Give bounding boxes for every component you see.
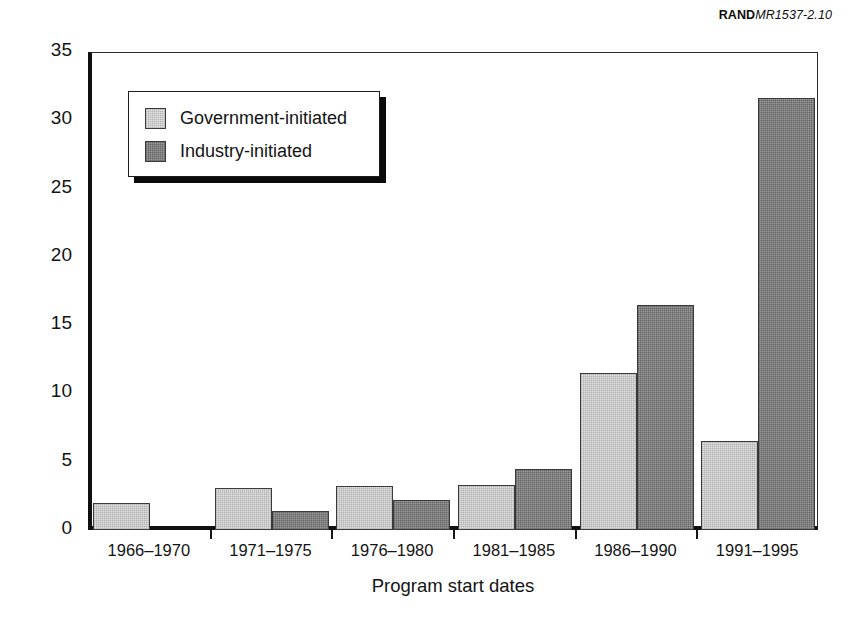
bar-industry-1991-1995: [758, 98, 815, 530]
x-tick-mark-4: [575, 530, 577, 539]
y-tick-label: 35: [51, 39, 72, 61]
bar-government-1981-1985: [458, 485, 515, 530]
x-tick-mark-1: [210, 530, 212, 539]
legend-label-government: Government-initiated: [180, 108, 347, 129]
legend-swatch-industry: [145, 141, 166, 162]
x-tick-mark-5: [696, 530, 698, 539]
bar-government-1966-1970: [93, 503, 150, 530]
y-tick-label: 20: [51, 244, 72, 266]
chart-figure: RANDMR1537-2.10 Number of programs 05101…: [0, 0, 856, 620]
chart-legend: Government-initiated Industry-initiated: [128, 91, 380, 177]
y-tick-label: 15: [51, 312, 72, 334]
bar-government-1971-1975: [215, 488, 272, 530]
legend-label-industry: Industry-initiated: [180, 141, 312, 162]
bar-industry-1981-1985: [515, 469, 572, 530]
legend-item-government: Government-initiated: [145, 102, 379, 135]
bar-government-1991-1995: [701, 441, 758, 530]
bar-industry-1986-1990: [637, 305, 694, 530]
bar-industry-1971-1975: [272, 511, 329, 530]
y-tick-label: 30: [51, 107, 72, 129]
legend-swatch-government: [145, 108, 166, 129]
y-tick-label: 5: [61, 449, 72, 471]
y-tick-label: 0: [61, 517, 72, 539]
credit-org: RAND: [719, 8, 756, 22]
y-tick-label: 25: [51, 176, 72, 198]
x-axis-title: Program start dates: [88, 575, 818, 597]
credit-doc-id: MR1537-2.10: [755, 8, 832, 22]
bar-industry-1976-1980: [393, 500, 450, 530]
x-tick-mark-2: [331, 530, 333, 539]
rand-credit: RANDMR1537-2.10: [719, 8, 832, 22]
bar-government-1986-1990: [580, 373, 637, 530]
legend-item-industry: Industry-initiated: [145, 135, 379, 168]
x-tick-label-5: 1991–1995: [682, 541, 832, 560]
bar-government-1976-1980: [336, 486, 393, 530]
x-tick-mark-3: [453, 530, 455, 539]
y-tick-label: 10: [51, 380, 72, 402]
